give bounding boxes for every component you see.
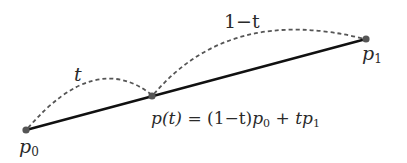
formula-eq: = — [182, 108, 207, 128]
formula-p0: p — [252, 108, 263, 128]
formula-sub1: 1 — [313, 117, 320, 130]
formula-sub0: 0 — [263, 117, 270, 130]
point-pt — [148, 92, 155, 99]
label-p1-sub: 1 — [374, 52, 382, 66]
arc-t — [28, 79, 152, 128]
formula-p1: p — [302, 108, 313, 128]
formula-plus: + — [270, 108, 295, 128]
label-p0-sub: 0 — [31, 145, 39, 159]
label-p0: p0 — [19, 135, 39, 159]
arc-one-minus-t — [154, 30, 365, 94]
formula-coef: (1−t) — [207, 108, 252, 128]
formula-lhs: p(t) — [151, 108, 182, 128]
label-p1: p1 — [362, 42, 382, 66]
arc-label-t: t — [74, 63, 82, 85]
point-p0 — [22, 126, 29, 133]
formula: p(t) = (1−t)p0 + tp1 — [151, 108, 320, 130]
label-p0-name: p — [19, 135, 31, 157]
arc-label-one-minus-t: 1−t — [224, 10, 260, 32]
linear-interpolation-diagram: t 1−t p0 p1 p(t) = (1−t)p0 + tp1 — [0, 0, 407, 163]
label-p1-name: p — [362, 42, 374, 64]
